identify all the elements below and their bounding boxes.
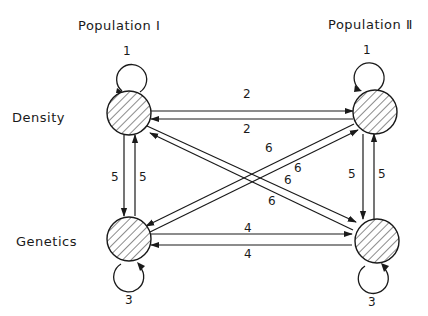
edge-label-pop1-genetics-to-density: 5 [139,170,147,184]
edge-label-pop2-density-to-genetics: 5 [348,167,356,181]
row-label-density: Density [12,110,65,125]
node-genetics-population-1 [107,217,151,261]
interaction-diagram: Population Ⅰ Population Ⅱ Density Geneti… [0,0,428,316]
column-header-population-1: Population Ⅰ [78,18,160,33]
edge-label-genetics-II-to-I: 4 [244,247,252,261]
edge-label-genetics-I-to-density-II: 6 [294,161,302,175]
self-loop-genetics-I [114,262,145,292]
self-loop-density-I [116,65,147,93]
edge-label-density-I-to-genetics-II: 6 [284,173,292,187]
node-genetics-population-2 [355,219,399,263]
row-label-genetics: Genetics [16,234,77,249]
edge-label-genetics-I-to-II: 4 [244,221,252,235]
edge-genetics-I-to-density-II [150,130,358,232]
edge-label-genetics-II-to-density-I: 6 [268,194,276,208]
self-loop-density-II [354,63,384,92]
self-loop-label-genetics-II: 3 [368,295,376,309]
edge-label-density-II-to-I: 2 [243,122,251,136]
self-loop-label-density-I: 1 [123,44,131,58]
column-header-population-2: Population Ⅱ [328,17,413,32]
node-density-population-1 [107,91,151,135]
edge-label-density-II-to-genetics-I: 6 [265,141,273,155]
self-loop-genetics-II [358,263,389,294]
edge-label-pop2-genetics-to-density: 5 [378,167,386,181]
edge-label-density-I-to-II: 2 [243,87,251,101]
node-density-population-2 [353,90,397,134]
self-loop-label-genetics-I: 3 [125,293,133,307]
self-loop-label-density-II: 1 [363,43,371,57]
edge-density-I-to-genetics-II [147,126,356,222]
edge-label-pop1-density-to-genetics: 5 [111,170,119,184]
